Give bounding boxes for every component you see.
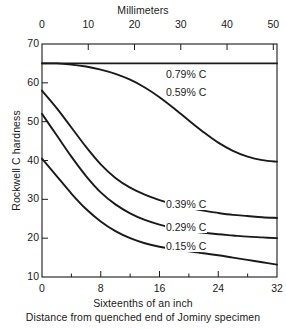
curve-series-3 xyxy=(42,114,277,238)
x-axis-tick-label: 16 xyxy=(148,282,172,294)
x-axis-sublabel: Distance from quenched end of Jominy spe… xyxy=(0,311,286,323)
x-axis-tick-label: 0 xyxy=(30,282,54,294)
axis-frame xyxy=(42,44,277,277)
curve-series-4 xyxy=(42,159,277,265)
curve-label-3: 0.29% C xyxy=(165,221,207,233)
curve-series-1 xyxy=(42,63,277,161)
curve-label-0: 0.79% C xyxy=(165,68,207,80)
x-axis-tick-label: 8 xyxy=(89,282,113,294)
curve-label-2: 0.39% C xyxy=(165,198,207,210)
x-axis-tick-label: 24 xyxy=(206,282,230,294)
jominy-hardenability-chart: Millimeters 01020304050 Rockwell C hardn… xyxy=(0,0,286,329)
curve-label-4: 0.15% C xyxy=(165,240,207,252)
curve-label-1: 0.59% C xyxy=(165,86,207,98)
x-axis-tick-label: 32 xyxy=(265,282,286,294)
plot-area xyxy=(0,0,286,329)
x-axis-title: Sixteenths of an inch xyxy=(0,297,286,309)
